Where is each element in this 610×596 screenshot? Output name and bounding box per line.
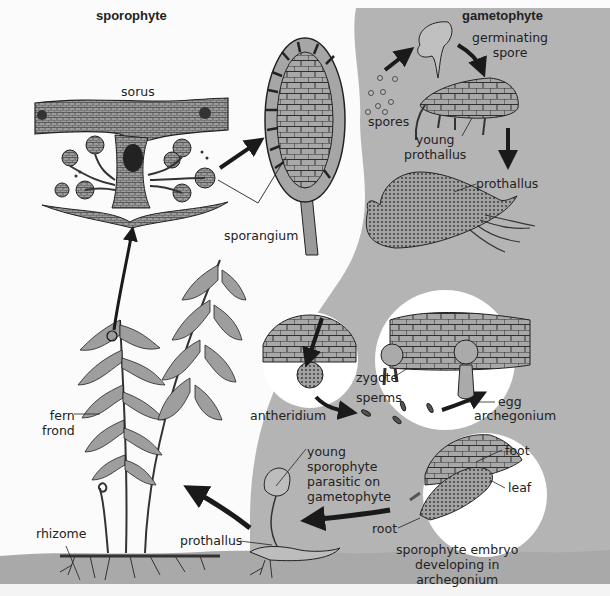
sporangium-drawing <box>265 38 345 255</box>
label-sporangium: sporangium <box>224 228 298 243</box>
label-sorus: sorus <box>121 84 155 99</box>
label-germinating-spore: germinating spore <box>472 30 548 60</box>
label-young-sporophyte: young sporophyte parasitic on gametophyt… <box>307 444 391 504</box>
fern-life-cycle-diagram: sporophyte gametophyte sorus sporangium … <box>0 0 610 596</box>
label-prothallus-bottom: prothallus <box>180 533 242 548</box>
label-rhizome: rhizome <box>36 526 86 541</box>
arrow-sorus-to-sporangium <box>220 142 258 168</box>
label-spores: spores <box>368 114 409 129</box>
sorus-drawing <box>35 98 228 228</box>
label-egg: egg <box>498 394 522 409</box>
label-root: root <box>372 521 397 536</box>
label-leaf: leaf <box>508 480 531 495</box>
label-prothallus-top: prothallus <box>476 176 538 191</box>
label-archegonium: archegonium <box>474 408 556 423</box>
gametophyte-title: gametophyte <box>462 8 543 23</box>
label-fern-frond: fern frond <box>42 408 75 438</box>
fern-drawing <box>60 260 246 580</box>
label-sperms: sperms <box>356 390 402 405</box>
label-zygote: zygote <box>356 370 398 385</box>
sporophyte-title: sporophyte <box>96 8 167 23</box>
label-foot: foot <box>505 443 530 458</box>
arrow-young-sporophyte-to-fern <box>192 490 250 528</box>
label-antheridium: antheridium <box>250 408 326 423</box>
arrow-frond-to-sorus <box>114 232 132 330</box>
label-sporophyte-embryo: sporophyte embryo developing in archegon… <box>396 542 518 587</box>
diagram-artwork <box>0 0 610 596</box>
label-young-prothallus: young prothallus <box>404 132 466 162</box>
